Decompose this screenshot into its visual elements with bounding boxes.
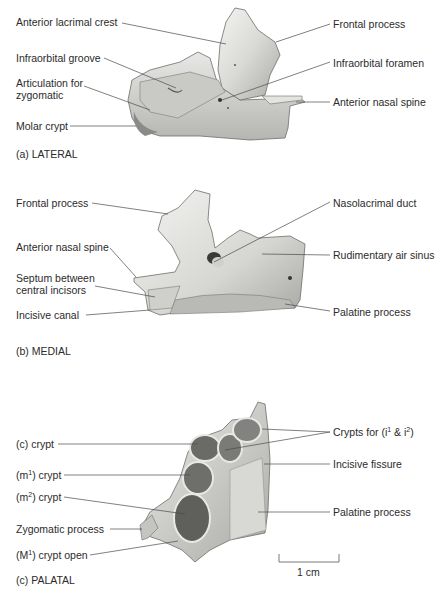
label-line-1: Articulation for (16, 77, 83, 89)
label-line-2: central incisors (16, 284, 95, 296)
label-prefix: (M (16, 549, 28, 561)
label-c-crypt: (c) crypt (16, 438, 54, 450)
scale-bar (279, 554, 339, 562)
label-infraorbital-foramen: Infraorbital foramen (333, 57, 424, 69)
label-incisive-fissure: Incisive fissure (333, 458, 402, 470)
label-infraorbital-groove: Infraorbital groove (16, 52, 101, 64)
label-prefix: (m (16, 491, 28, 503)
label-nasolacrimal-duct: Nasolacrimal duct (333, 197, 416, 209)
label-zygomatic-process: Zygomatic process (16, 523, 104, 535)
label-suffix: ) crypt (32, 469, 61, 481)
label-crypts-for-i1-i2: Crypts for (i1 & i2) (333, 426, 414, 438)
label-palatine-process: Palatine process (333, 306, 411, 318)
label-anterior-nasal-spine: Anterior nasal spine (333, 96, 426, 108)
label-suffix: ) (410, 426, 414, 438)
scale-bar-label: 1 cm (297, 566, 320, 578)
caption-medial: (b) MEDIAL (16, 345, 71, 357)
label-palatine-process: Palatine process (333, 506, 411, 518)
panel-palatal: (c) crypt (m1) crypt (m2) crypt Zygomati… (0, 390, 445, 599)
label-middle: & i (391, 426, 406, 438)
label-suffix: ) crypt open (32, 549, 87, 561)
label-line-1: Septum between (16, 272, 95, 284)
label-m1-crypt: (m1) crypt (16, 469, 61, 481)
label-articulation-for-zygomatic: Articulation for zygomatic (16, 77, 83, 101)
label-m2-crypt: (m2) crypt (16, 491, 61, 503)
label-incisive-canal: Incisive canal (16, 309, 79, 321)
label-anterior-lacrimal-crest: Anterior lacrimal crest (16, 16, 118, 28)
palatal-bone-illustration (0, 390, 445, 599)
label-prefix: Crypts for (i (333, 426, 387, 438)
label-M1-crypt-open: (M1) crypt open (16, 549, 88, 561)
label-molar-crypt: Molar crypt (16, 120, 68, 132)
label-rudimentary-air-sinus: Rudimentary air sinus (333, 249, 435, 261)
label-frontal-process: Frontal process (333, 18, 405, 30)
caption-lateral: (a) LATERAL (16, 148, 78, 160)
label-suffix: ) crypt (32, 491, 61, 503)
caption-palatal: (c) PALATAL (16, 574, 75, 586)
label-frontal-process: Frontal process (16, 197, 88, 209)
panel-lateral: Anterior lacrimal crest Infraorbital gro… (0, 0, 445, 180)
label-anterior-nasal-spine: Anterior nasal spine (16, 241, 109, 253)
panel-medial: Frontal process Anterior nasal spine Sep… (0, 180, 445, 380)
label-prefix: (m (16, 469, 28, 481)
label-septum-between-central-incisors: Septum between central incisors (16, 272, 95, 296)
label-line-2: zygomatic (16, 89, 83, 101)
